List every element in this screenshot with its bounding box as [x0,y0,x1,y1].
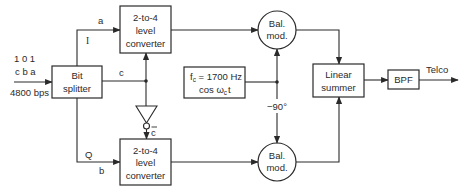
svg-text:Linear: Linear [325,69,351,80]
input-labels: 1 0 1 c b a 4800 bps [10,53,49,98]
balmod-top-block: Bal. mod. [258,11,296,49]
i-channel-label: I [86,36,89,46]
inverter-triangle-icon [136,106,157,123]
svg-text:converter: converter [126,170,166,181]
qpsk-modulator-diagram: 1 0 1 c b a 4800 bps Bit splitter a I Q … [0,0,466,194]
q-bit-label: b [99,165,104,176]
inverter-bubble-icon [144,123,150,129]
linear-summer-block: Linear summer [313,64,364,97]
svg-text:level: level [136,25,156,36]
top-balmod-output-wire [296,30,339,64]
svg-text:Bit: Bit [71,70,82,81]
svg-text:fc = 1700 Hz: fc = 1700 Hz [190,71,242,83]
svg-text:BPF: BPF [394,74,413,85]
svg-text:splitter: splitter [63,83,91,94]
telco-label: Telco [426,64,448,75]
input-bits: 1 0 1 [14,53,35,64]
svg-text:2-to-4: 2-to-4 [133,12,158,23]
svg-text:mod.: mod. [266,30,287,41]
i-bit-label: a [98,15,104,26]
svg-text:level: level [136,157,156,168]
svg-text:converter: converter [126,38,166,49]
bit-splitter-block: Bit splitter [52,66,102,98]
svg-text:mod.: mod. [266,162,287,173]
svg-text:summer: summer [321,82,355,93]
svg-text:2-to-4: 2-to-4 [133,145,158,156]
i-channel-wire [77,30,120,66]
q-channel-wire [77,98,120,162]
c-bit-label: c [119,67,124,78]
bpf-block: BPF [388,70,419,89]
inverter [136,106,157,129]
c-bar-label: c [151,127,156,138]
q-channel-label: Q [85,149,92,160]
bottom-balmod-output-wire [296,97,339,162]
input-bit-names: c b a [15,66,36,77]
converter-top-block: 2-to-4 level converter [120,6,171,53]
converter-bottom-block: 2-to-4 level converter [120,139,171,185]
input-rate: 4800 bps [10,87,49,98]
svg-text:Bal.: Bal. [269,18,285,29]
phase-shift-label: −90° [267,101,287,112]
balmod-bottom-block: Bal. mod. [258,143,296,181]
svg-text:Bal.: Bal. [269,150,285,161]
oscillator-block: fc = 1700 Hz cos ωct [184,67,245,98]
